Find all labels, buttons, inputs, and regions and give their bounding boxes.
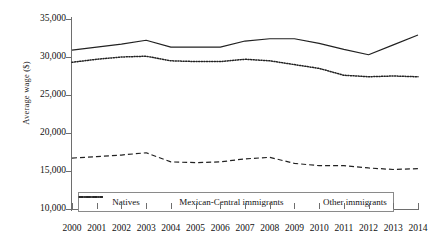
x-tick-mark — [220, 203, 221, 209]
y-tick-mark — [66, 171, 72, 172]
x-tick-mark — [146, 203, 147, 209]
x-tick-mark — [294, 203, 295, 209]
x-tick-mark — [270, 203, 271, 209]
legend-swatch-solid — [296, 198, 320, 206]
x-tick-mark — [97, 203, 98, 209]
legend-item-mexican-central-immigrants: Mexican-Central immigrants — [152, 198, 283, 207]
x-tick-mark — [72, 203, 73, 209]
series-line-other-immigrants — [72, 35, 418, 55]
y-tick-mark — [66, 133, 72, 134]
y-tick-label: 20,000 — [12, 128, 66, 138]
x-tick-mark — [196, 203, 197, 209]
x-tick-mark — [121, 203, 122, 209]
legend-label-other-immigrants: Other immigrants — [323, 198, 387, 207]
series-lines — [72, 19, 418, 209]
chart-legend: Natives Mexican-Central immigrants Other… — [78, 192, 394, 212]
series-line-mexican-central-immigrants — [72, 153, 418, 170]
y-tick-mark — [66, 57, 72, 58]
y-tick-label: 15,000 — [12, 166, 66, 176]
x-tick-mark — [418, 203, 419, 209]
x-axis-tick-labels: 2000200120022003200420052006200720082009… — [0, 224, 432, 240]
chart-figure: Average wage ($) 10,00015,00020,00025,00… — [0, 0, 432, 244]
x-tick-label: 2014 — [401, 224, 432, 234]
y-tick-mark — [66, 19, 72, 20]
x-tick-mark — [369, 203, 370, 209]
x-tick-mark — [319, 203, 320, 209]
x-tick-mark — [344, 203, 345, 209]
x-tick-mark — [393, 203, 394, 209]
y-tick-label: 25,000 — [12, 90, 66, 100]
y-tick-label: 30,000 — [12, 52, 66, 62]
x-tick-mark — [245, 203, 246, 209]
plot-area — [72, 19, 418, 209]
y-axis-tick-labels: 10,00015,00020,00025,00030,00035,000 — [8, 0, 66, 244]
y-tick-mark — [66, 209, 72, 210]
legend-label-natives: Natives — [112, 198, 140, 207]
series-line-natives — [72, 56, 418, 77]
y-tick-label: 10,000 — [12, 204, 66, 214]
y-tick-mark — [66, 95, 72, 96]
legend-swatch-dashed — [152, 198, 176, 206]
y-tick-label: 35,000 — [12, 14, 66, 24]
x-tick-mark — [171, 203, 172, 209]
legend-item-other-immigrants: Other immigrants — [296, 198, 387, 207]
